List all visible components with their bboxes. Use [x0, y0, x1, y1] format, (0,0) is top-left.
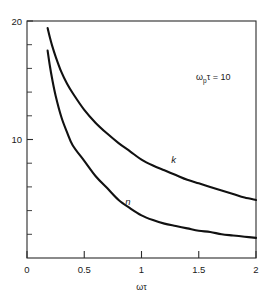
y-axis-ticks	[27, 21, 33, 234]
chart-plot: 20 10 0 0.5 1 1.5 2 ωτ ωpτ = 10 k n	[0, 0, 273, 299]
curve-label-k: k	[171, 154, 177, 165]
x-tick-label-2: 2	[253, 264, 258, 275]
plot-frame	[27, 21, 256, 258]
x-tick-label-0-5: 0.5	[78, 264, 91, 275]
plasma-frequency-annotation: ωpτ = 10	[196, 72, 230, 85]
x-axis-ticks	[27, 251, 256, 258]
y-tick-label-20: 20	[11, 16, 22, 27]
x-tick-label-1: 1	[139, 264, 144, 275]
annotation-omega: ω	[196, 72, 203, 82]
curve-label-n: n	[125, 196, 130, 207]
annotation-suffix: τ = 10	[207, 72, 231, 82]
y-tick-label-10: 10	[11, 134, 22, 145]
figure-container: 20 10 0 0.5 1 1.5 2 ωτ ωpτ = 10 k n	[0, 0, 273, 299]
x-tick-label-1-5: 1.5	[192, 264, 205, 275]
x-tick-label-0: 0	[24, 264, 29, 275]
x-axis-title: ωτ	[136, 282, 147, 292]
curve-k	[48, 28, 256, 200]
